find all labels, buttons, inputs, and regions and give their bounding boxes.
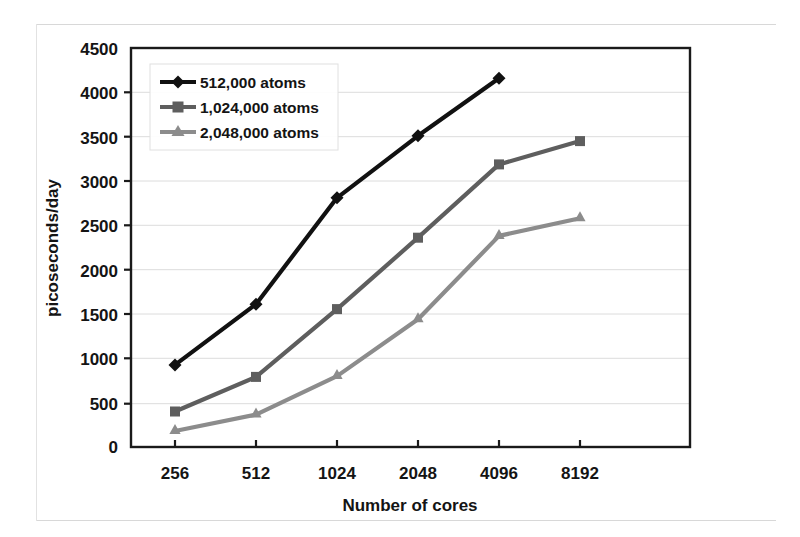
- x-tick-label-512: 512: [242, 464, 270, 483]
- line-chart: 0 500 1000 1500 2000 2500 3000 3500 4000…: [0, 0, 800, 537]
- y-tick-label-4500: 4500: [80, 40, 118, 59]
- square-marker-icon: [173, 102, 184, 113]
- y-tick-label-3500: 3500: [80, 129, 118, 148]
- legend-label-1024000: 1,024,000 atoms: [200, 99, 319, 116]
- y-tick-label-1500: 1500: [80, 306, 118, 325]
- x-tick-label-4096: 4096: [480, 464, 518, 483]
- series-1024000-atoms: [170, 136, 585, 416]
- data-point-marker: [332, 304, 342, 314]
- x-axis-title: Number of cores: [342, 496, 477, 515]
- x-tick-label-2048: 2048: [399, 464, 437, 483]
- legend-label-2048000: 2,048,000 atoms: [200, 124, 319, 141]
- y-tick-label-2000: 2000: [80, 262, 118, 281]
- data-point-marker: [494, 159, 504, 169]
- y-tick-label-500: 500: [90, 395, 118, 414]
- chart-figure: 0 500 1000 1500 2000 2500 3000 3500 4000…: [0, 0, 800, 537]
- data-point-marker: [575, 136, 585, 146]
- y-tick-label-4000: 4000: [80, 84, 118, 103]
- data-point-marker: [413, 233, 423, 243]
- y-axis-title: picoseconds/day: [43, 178, 62, 316]
- y-tick-label-0: 0: [109, 438, 118, 457]
- y-tick-label-1000: 1000: [80, 350, 118, 369]
- y-tick-label-3000: 3000: [80, 173, 118, 192]
- data-point-marker: [170, 407, 180, 417]
- data-point-marker: [574, 211, 585, 221]
- data-point-marker: [251, 372, 261, 382]
- legend-label-512000: 512,000 atoms: [200, 74, 306, 91]
- y-tick-label-2500: 2500: [80, 217, 118, 236]
- chart-legend: 512,000 atoms 1,024,000 atoms 2,048,000 …: [150, 64, 338, 150]
- x-axis-tick-labels: 256 512 1024 2048 4096 8192: [161, 464, 599, 483]
- y-axis-tick-labels: 0 500 1000 1500 2000 2500 3000 3500 4000…: [80, 40, 118, 457]
- x-tick-label-1024: 1024: [318, 464, 356, 483]
- x-tick-label-8192: 8192: [561, 464, 599, 483]
- x-tick-label-256: 256: [161, 464, 189, 483]
